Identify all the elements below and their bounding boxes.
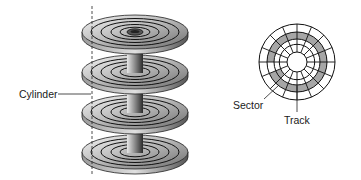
track-label: Track (284, 115, 310, 126)
cylinder-label: Cylinder (19, 89, 58, 100)
disk-geometry-diagram: Cylinder Sector Track (0, 0, 361, 180)
platter-stack (82, 15, 188, 174)
sector-label: Sector (233, 100, 263, 111)
platter-1 (82, 15, 188, 54)
